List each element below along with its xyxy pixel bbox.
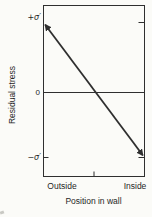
x-tick-label-outside: Outside	[44, 182, 80, 191]
y-tick-label-minus-sigma: −σ′	[11, 153, 41, 162]
residual-stress-chart: +σ′ 0 −σ′ Residual stress Outside Inside…	[0, 0, 152, 217]
x-axis-title: Position in wall	[43, 197, 144, 206]
y-axis-title: Residual stress	[8, 45, 18, 145]
y-tick-label-plus-sigma: +σ′	[11, 13, 41, 22]
x-tick-label-inside: Inside	[117, 182, 152, 191]
stress-profile-line	[45, 25, 143, 156]
